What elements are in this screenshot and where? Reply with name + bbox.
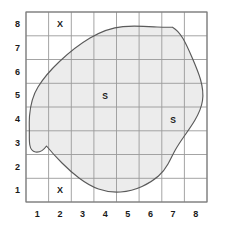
marker-s-center: S (98, 91, 112, 101)
marker-s-right: S (166, 115, 180, 125)
x-axis-label-3: 3 (76, 209, 90, 219)
y-axis-label-3: 3 (6, 138, 20, 148)
y-axis-label-5: 5 (6, 90, 20, 100)
x-axis-label-7: 7 (166, 209, 180, 219)
x-axis-label-6: 6 (143, 209, 157, 219)
y-axis-label-8: 8 (6, 19, 20, 29)
marker-x-bottom: X (53, 185, 67, 195)
coordinate-grid-figure: 8 7 6 5 4 3 2 1 1 2 3 4 5 6 7 8 X S S X (0, 0, 225, 228)
y-axis-label-2: 2 (6, 162, 20, 172)
x-axis-label-5: 5 (121, 209, 135, 219)
x-axis-label-1: 1 (30, 209, 44, 219)
x-axis-label-8: 8 (189, 209, 203, 219)
marker-x-top: X (53, 19, 67, 29)
x-axis-label-2: 2 (53, 209, 67, 219)
y-axis-label-7: 7 (6, 43, 20, 53)
x-axis-label-4: 4 (98, 209, 112, 219)
y-axis-label-4: 4 (6, 114, 20, 124)
grid-plot-svg (0, 0, 225, 228)
y-axis-label-6: 6 (6, 67, 20, 77)
y-axis-label-1: 1 (6, 185, 20, 195)
